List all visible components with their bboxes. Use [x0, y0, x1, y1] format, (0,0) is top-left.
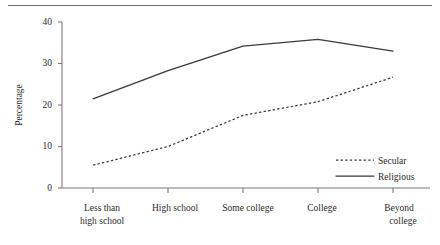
chart-figure: Percentage 40 30 20 10 0	[0, 0, 440, 245]
x-category-label-0-line-0: Less than	[84, 203, 120, 213]
y-tick-label-30: 30	[43, 58, 53, 68]
x-category-label-3: College	[307, 203, 337, 213]
y-tick-label-10: 10	[43, 141, 53, 151]
y-axis-title: Percentage	[14, 84, 24, 126]
y-tick-label-0: 0	[47, 183, 52, 193]
series-religious-line	[93, 39, 393, 98]
chart-legend: Secular Religious	[336, 156, 415, 182]
x-category-label-2: Some college	[222, 203, 273, 213]
x-category-label-1: High school	[152, 203, 199, 213]
series-secular-line	[93, 77, 393, 165]
y-tick-label-40: 40	[43, 17, 53, 27]
y-tick-label-20: 20	[43, 100, 53, 110]
x-category-label-0-line-1: high school	[80, 216, 124, 226]
legend-label-religious: Religious	[378, 172, 415, 182]
x-category-label-4-line-1: college	[389, 216, 416, 226]
x-category-label-4-line-0: Beyond	[384, 203, 414, 213]
line-chart-svg: Percentage 40 30 20 10 0	[0, 0, 440, 245]
legend-label-secular: Secular	[378, 156, 407, 166]
chart-canvas: Percentage 40 30 20 10 0	[0, 0, 440, 245]
